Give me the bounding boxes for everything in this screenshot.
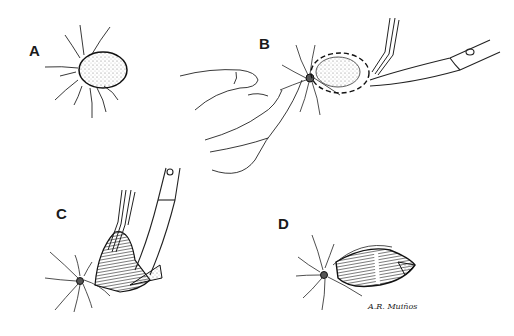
panel-label-b: B <box>259 35 270 52</box>
panel-label-d: D <box>278 215 289 232</box>
panel-b-excision <box>180 18 500 173</box>
artist-signature: A.R. Muiños <box>368 302 417 311</box>
illustration-canvas <box>0 0 514 336</box>
panel-a-lesion <box>45 25 127 118</box>
panel-c-undermining <box>45 168 180 312</box>
panel-label-c: C <box>56 205 67 222</box>
panel-d-defect <box>296 235 415 310</box>
panel-label-a: A <box>29 42 40 59</box>
